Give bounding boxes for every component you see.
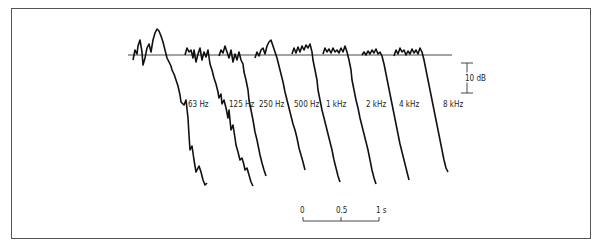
time-scale-bar [303,217,379,221]
curve-1khz [292,44,340,182]
decay-chart: 63 Hz 125 Hz 250 Hz 500 Hz 1 kHz 2 kHz 4… [0,0,604,251]
time-tick-0: 0 [300,206,305,215]
label-8khz: 8 kHz [443,100,463,109]
label-250hz: 250 Hz [259,100,284,109]
label-500hz: 500 Hz [294,100,319,109]
label-125hz: 125 Hz [229,100,254,109]
label-4khz: 4 kHz [399,100,419,109]
curve-4khz [362,49,409,180]
db-scale-label: 10 dB [465,74,486,83]
time-tick-1s: 1 s [376,206,387,215]
label-1khz: 1 kHz [326,100,346,109]
time-tick-0-5: 0.5 [336,206,347,215]
label-2khz: 2 kHz [366,100,386,109]
curve-2khz [323,46,376,184]
label-63hz: 63 Hz [188,100,209,109]
